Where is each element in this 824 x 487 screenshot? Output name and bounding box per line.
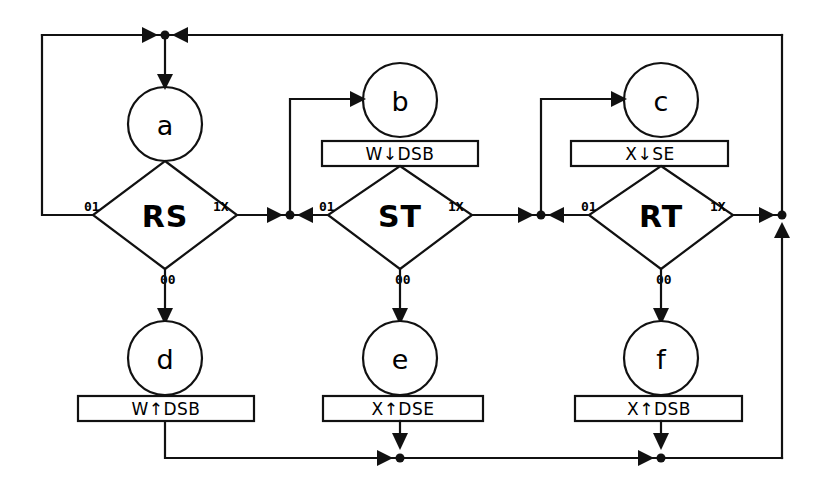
arrow-st-left-back	[297, 207, 313, 223]
state-node-e-group[interactable]: e	[363, 321, 437, 395]
arrow-top-bus-right	[142, 27, 158, 43]
state-node-c-label: c	[654, 86, 669, 117]
edge-label-rs-bottom: 00	[160, 272, 176, 287]
rs-left-feedback-riser	[42, 35, 93, 215]
junction-dot-top-bus	[161, 31, 170, 40]
state-node-e-label: e	[392, 344, 409, 375]
arrow-f-to-bottom-bus	[653, 433, 669, 450]
decision-node-st-label: ST	[378, 199, 422, 234]
decision-node-rt-label: RT	[639, 199, 683, 234]
action-box-d-label: W↑DSB	[131, 399, 200, 419]
state-node-a-label: a	[157, 110, 174, 141]
action-box-e-group[interactable]: X↑DSE	[323, 396, 483, 421]
edge-label-rs-left: 01	[84, 199, 100, 214]
diagram-canvas: a RS 01 1X 00 d W↑DSB b W↓DSB	[0, 0, 824, 487]
edge-label-rs-right: 1X	[213, 199, 229, 214]
arrow-e-to-bottom-bus	[392, 433, 408, 450]
arrow-rs-out-right	[267, 207, 283, 223]
junction-dot-bottom-e	[396, 454, 405, 463]
state-node-d-label: d	[156, 344, 173, 375]
action-box-c-group[interactable]: X↓SE	[571, 141, 728, 166]
edge-label-st-left: 01	[319, 199, 335, 214]
decision-node-rs-group[interactable]: RS	[93, 161, 237, 269]
state-transition-diagram: a RS 01 1X 00 d W↑DSB b W↓DSB	[0, 0, 824, 487]
junction-dot-st-out	[537, 211, 546, 220]
action-box-b-group[interactable]: W↓DSB	[322, 141, 478, 166]
state-node-f-label: f	[656, 344, 667, 375]
arrow-top-bus-left	[172, 27, 188, 43]
edge-label-st-bottom: 00	[395, 272, 411, 287]
decision-node-rt-group[interactable]: RT	[589, 166, 733, 269]
action-box-f-group[interactable]: X↑DSB	[575, 396, 742, 421]
state-node-b-group[interactable]: b	[363, 63, 437, 137]
state-node-f-group[interactable]: f	[624, 321, 698, 395]
junction-dot-rt-out	[778, 211, 787, 220]
arrow-bottom-bus-up	[774, 222, 790, 238]
arrow-st-out-right	[518, 207, 534, 223]
action-box-d-group[interactable]: W↑DSB	[78, 396, 254, 421]
edge-label-rt-bottom: 00	[656, 272, 672, 287]
state-node-c-group[interactable]: c	[624, 63, 698, 137]
edge-label-rt-left: 01	[581, 199, 597, 214]
decision-node-st-group[interactable]: ST	[328, 166, 472, 269]
arrow-rt-out-right	[759, 207, 775, 223]
arrow-bottom-bus-into-f-junction	[638, 450, 654, 466]
junction-dot-bottom-f	[657, 454, 666, 463]
arrow-rt-left-back	[548, 207, 564, 223]
state-node-b-label: b	[391, 86, 408, 117]
decision-node-rs-label: RS	[142, 199, 189, 234]
junction-dot-rs-out	[286, 211, 295, 220]
action-box-f-label: X↑DSB	[627, 399, 691, 419]
action-box-b-label: W↓DSB	[365, 144, 434, 164]
edge-label-rt-right: 1X	[710, 199, 726, 214]
action-box-c-label: X↓SE	[625, 144, 674, 164]
state-node-d-group[interactable]: d	[128, 321, 202, 395]
action-box-e-label: X↑DSE	[371, 399, 434, 419]
bottom-bus-line	[165, 421, 782, 458]
edge-label-st-right: 1X	[448, 199, 464, 214]
state-node-a-group[interactable]: a	[128, 87, 202, 161]
arrow-bottom-bus-into-e-junction	[377, 450, 393, 466]
